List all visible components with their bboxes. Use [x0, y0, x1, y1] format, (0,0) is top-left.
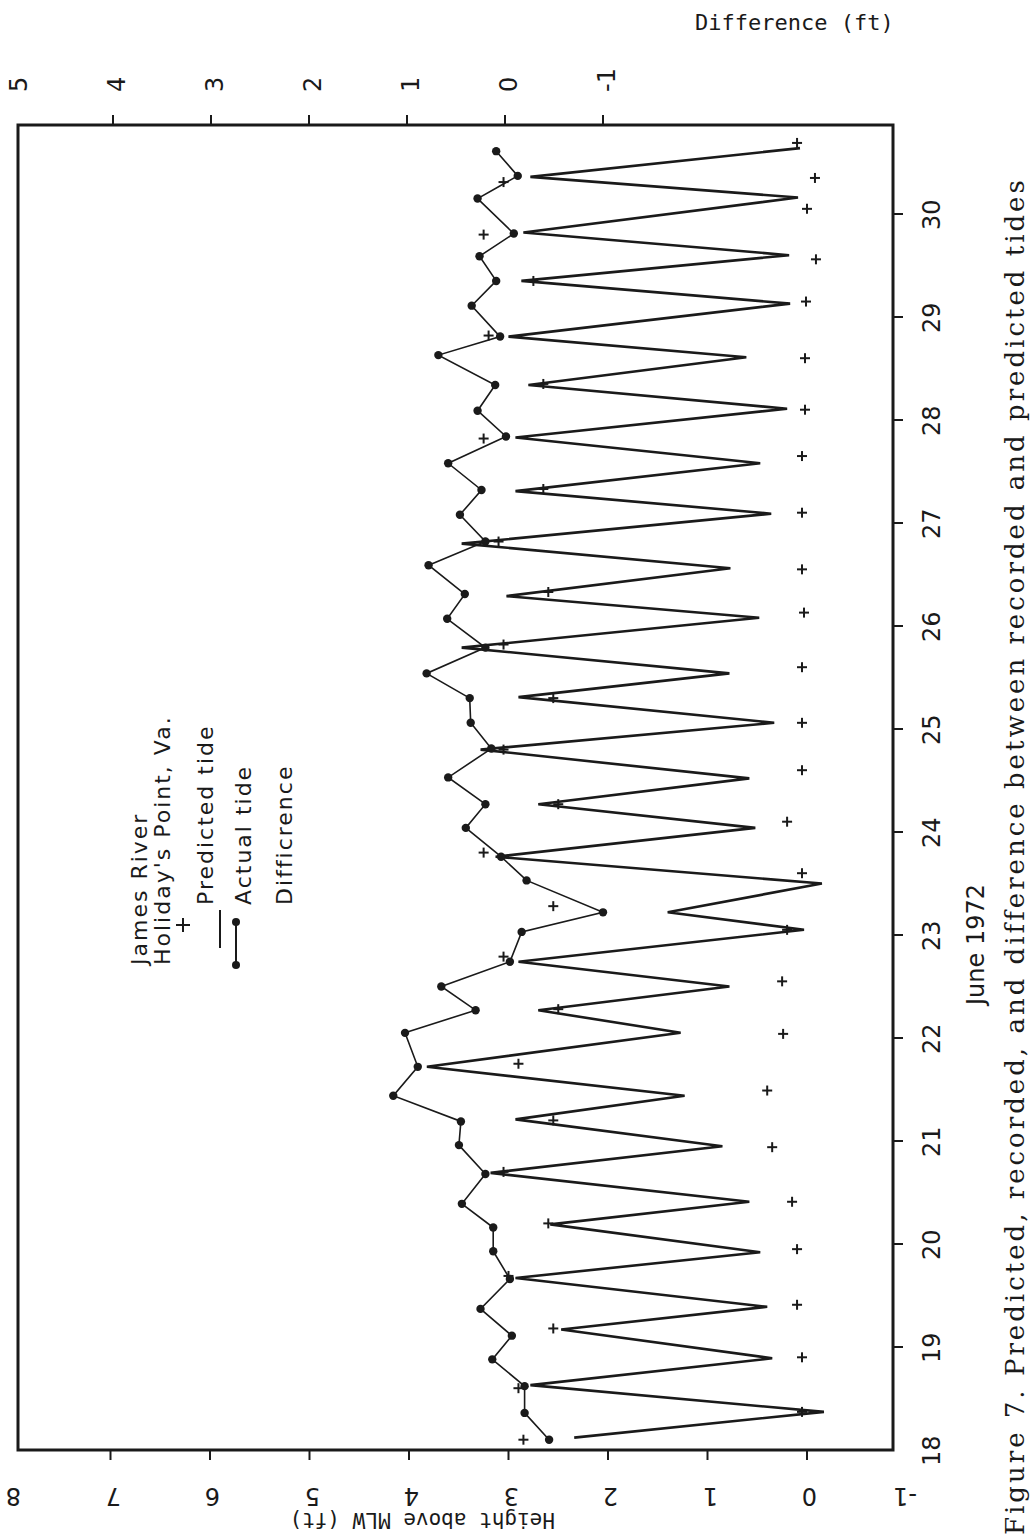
- day-tick-label: 29: [918, 302, 946, 333]
- difference-tick-label: 2: [299, 77, 327, 92]
- height-tick-label: 6: [205, 1482, 220, 1510]
- day-tick-label: 30: [918, 199, 946, 230]
- difference-tick-label: 3: [201, 77, 229, 92]
- day-tick-label: 27: [918, 508, 946, 539]
- day-tick-label: 28: [918, 405, 946, 436]
- legend-title-line2: Holiday's Point, Va.: [150, 715, 175, 965]
- day-tick-label: 20: [918, 1229, 946, 1260]
- height-tick-label: 1: [702, 1482, 717, 1510]
- figure-caption: Figure 7. Predicted, recorded, and diffe…: [1000, 177, 1030, 1535]
- day-tick-label: 24: [918, 817, 946, 848]
- axis-ticks: [111, 115, 904, 1460]
- difference-tick-label: 0: [495, 77, 523, 92]
- legend-label-actual: Actual tide: [231, 765, 256, 905]
- day-tick-label: 21: [918, 1126, 946, 1157]
- time-axis-title: June 1972: [962, 884, 990, 1005]
- difference-tick-label: 5: [5, 77, 33, 92]
- height-tick-label: 5: [304, 1482, 319, 1510]
- day-tick-label: 26: [918, 611, 946, 642]
- height-tick-label: -1: [893, 1482, 917, 1510]
- height-tick-label: 4: [404, 1482, 419, 1510]
- difference-axis-title: Difference (ft): [695, 10, 894, 35]
- day-tick-label: 22: [918, 1023, 946, 1054]
- height-tick-label: 3: [503, 1482, 518, 1510]
- legend-label-predicted: Predicted tide: [193, 724, 218, 905]
- difference-tick-label: -1: [593, 68, 621, 92]
- difference-tick-label: 4: [103, 77, 131, 92]
- height-tick-label: 7: [105, 1482, 120, 1510]
- day-tick-label: 23: [918, 920, 946, 951]
- height-axis-title: Height above MLW (ft): [289, 1508, 555, 1532]
- legend-label-difference: Difficrence: [272, 765, 297, 905]
- legend-title-line1: James River: [127, 813, 152, 965]
- height-tick-label: 2: [603, 1482, 618, 1510]
- day-tick-label: 19: [918, 1332, 946, 1363]
- height-tick-label: 0: [802, 1482, 817, 1510]
- day-tick-label: 18: [918, 1435, 946, 1466]
- height-tick-label: 8: [6, 1482, 21, 1510]
- day-tick-label: 25: [918, 714, 946, 745]
- legend-glyphs: [176, 910, 240, 969]
- difference-tick-label: 1: [397, 77, 425, 92]
